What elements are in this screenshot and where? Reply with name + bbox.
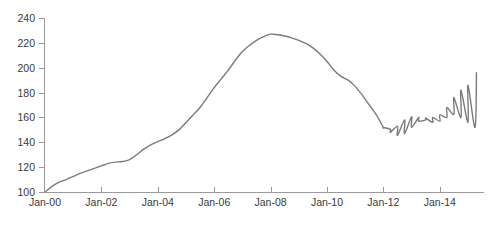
x-tick-label: Jan-12 <box>367 196 399 208</box>
y-tick-label: 140 <box>17 136 35 148</box>
chart-canvas: 100120140160180200220240 Jan-00Jan-02Jan… <box>0 0 488 228</box>
y-tick-label: 220 <box>17 37 35 49</box>
x-tick-label: Jan-06 <box>198 196 230 208</box>
y-tick-labels: 100120140160180200220240 <box>17 12 35 198</box>
x-axis-group: Jan-00Jan-02Jan-04Jan-06Jan-08Jan-10Jan-… <box>29 187 484 208</box>
y-axis-group: 100120140160180200220240 <box>17 12 45 198</box>
x-tick-label: Jan-04 <box>142 196 174 208</box>
x-tick-label: Jan-14 <box>424 196 456 208</box>
y-tick-label: 160 <box>17 111 35 123</box>
x-tick-label: Jan-08 <box>255 196 287 208</box>
x-tick-label: Jan-10 <box>311 196 343 208</box>
x-tick-label: Jan-02 <box>85 196 117 208</box>
y-tick-label: 240 <box>17 12 35 24</box>
x-tick-labels: Jan-00Jan-02Jan-04Jan-06Jan-08Jan-10Jan-… <box>29 196 456 208</box>
y-tick-label: 200 <box>17 62 35 74</box>
data-series-line <box>45 34 476 192</box>
plot-area <box>45 34 476 192</box>
y-tick-label: 120 <box>17 161 35 173</box>
y-tick-label: 180 <box>17 87 35 99</box>
line-chart-container: 100120140160180200220240 Jan-00Jan-02Jan… <box>0 0 488 228</box>
x-tick-label: Jan-00 <box>29 196 61 208</box>
